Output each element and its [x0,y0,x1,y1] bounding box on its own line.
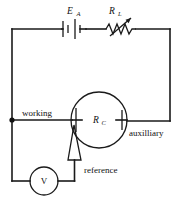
voltmeter: V [12,167,75,195]
circuit-schematic-canvas: E A R L R C [0,0,182,199]
cell-label-subscript: C [102,119,107,126]
auxiliary-electrode-label: auxilliary [129,128,164,138]
outer-loop-wires [12,29,170,181]
reference-electrode-label: reference [84,165,117,175]
reference-electrode-wedge [68,125,81,160]
battery-symbol [62,19,86,39]
working-electrode-label: working [22,108,52,118]
circuit-diagram: E A R L R C [0,0,182,199]
variable-resistor-symbol [106,18,136,36]
resistor-label-subscript: L [117,10,122,17]
cell-label: R [92,115,99,125]
resistor-zigzag [106,24,136,34]
resistor-label: R [108,6,115,16]
battery-label: E [66,6,73,16]
working-junction-dot [9,117,14,122]
battery-label-subscript: A [76,10,81,17]
voltmeter-label: V [41,176,48,186]
